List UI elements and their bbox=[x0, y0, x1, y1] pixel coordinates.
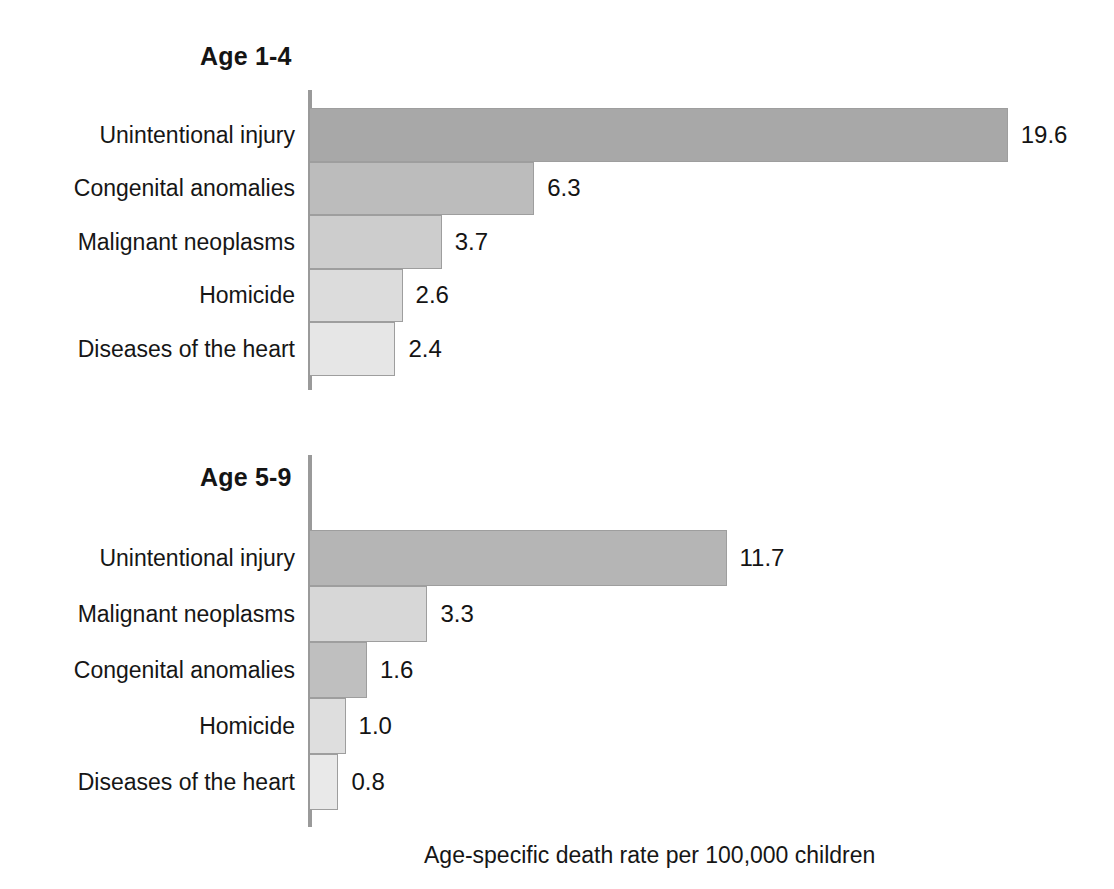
bar-row: Diseases of the heart0.8 bbox=[0, 754, 1114, 810]
bar-chart-age-5-9: Unintentional injury11.7Malignant neopla… bbox=[0, 530, 1114, 810]
bar-row: Unintentional injury19.6 bbox=[0, 108, 1114, 162]
bar-value-label: 3.7 bbox=[455, 228, 488, 256]
chart-figure: Age 1-4 Unintentional injury19.6Congenit… bbox=[0, 0, 1114, 889]
category-label: Diseases of the heart bbox=[78, 769, 295, 796]
category-label: Congenital anomalies bbox=[74, 175, 295, 202]
bar-value-label: 0.8 bbox=[351, 768, 384, 796]
category-label: Unintentional injury bbox=[99, 545, 295, 572]
bar bbox=[310, 215, 442, 269]
bar bbox=[310, 698, 346, 754]
category-label: Unintentional injury bbox=[99, 121, 295, 148]
bar-row: Malignant neoplasms3.3 bbox=[0, 586, 1114, 642]
category-label: Congenital anomalies bbox=[74, 657, 295, 684]
panel-title-age-5-9: Age 5-9 bbox=[200, 463, 292, 492]
bar-value-label: 19.6 bbox=[1021, 121, 1068, 149]
bar bbox=[310, 642, 367, 698]
panel-title-age-1-4: Age 1-4 bbox=[200, 42, 292, 71]
bar bbox=[310, 754, 338, 810]
bar bbox=[310, 322, 395, 376]
bar-chart-age-1-4: Unintentional injury19.6Congenital anoma… bbox=[0, 108, 1114, 376]
bar bbox=[310, 108, 1008, 162]
x-axis-caption: Age-specific death rate per 100,000 chil… bbox=[424, 842, 875, 869]
bar-row: Diseases of the heart2.4 bbox=[0, 322, 1114, 376]
category-label: Homicide bbox=[199, 713, 295, 740]
category-label: Malignant neoplasms bbox=[78, 228, 295, 255]
category-label: Homicide bbox=[199, 282, 295, 309]
bar bbox=[310, 162, 534, 216]
bar-row: Congenital anomalies6.3 bbox=[0, 162, 1114, 216]
bar-row: Malignant neoplasms3.7 bbox=[0, 215, 1114, 269]
bar-value-label: 1.0 bbox=[359, 712, 392, 740]
bar-value-label: 1.6 bbox=[380, 656, 413, 684]
bar bbox=[310, 586, 427, 642]
category-label: Malignant neoplasms bbox=[78, 601, 295, 628]
bar-row: Homicide1.0 bbox=[0, 698, 1114, 754]
bar-row: Congenital anomalies1.6 bbox=[0, 642, 1114, 698]
bar-value-label: 11.7 bbox=[740, 544, 785, 572]
bar-row: Unintentional injury11.7 bbox=[0, 530, 1114, 586]
bar-value-label: 6.3 bbox=[547, 174, 580, 202]
bar-value-label: 2.4 bbox=[408, 335, 441, 363]
bar bbox=[310, 530, 727, 586]
bar-row: Homicide2.6 bbox=[0, 269, 1114, 323]
category-label: Diseases of the heart bbox=[78, 335, 295, 362]
bar-value-label: 2.6 bbox=[416, 281, 449, 309]
bar-value-label: 3.3 bbox=[440, 600, 473, 628]
bar bbox=[310, 269, 403, 323]
